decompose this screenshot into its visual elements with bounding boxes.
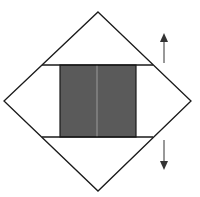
geometry-diagram	[0, 0, 200, 197]
shaded-rectangle	[60, 65, 136, 137]
